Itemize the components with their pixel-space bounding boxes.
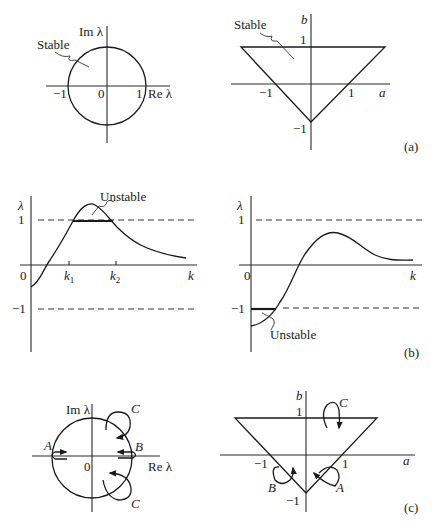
panel-a-right-triangle: b a 1 −1 −1 1 Stable (a) bbox=[231, 12, 418, 154]
tick-b-minus-one: −1 bbox=[293, 121, 307, 136]
tick-minus-one: −1 bbox=[231, 301, 245, 316]
panel-c-right-triangle: b a 1 −1 −1 1 C B A (c) bbox=[220, 388, 418, 515]
panel-a-left-unit-circle: Im λ Re λ −1 0 1 Stable bbox=[37, 24, 173, 143]
lambda-curve bbox=[31, 204, 186, 287]
tick-b-one: 1 bbox=[296, 404, 303, 419]
origin-label: 0 bbox=[20, 268, 27, 283]
panel-tag-b: (b) bbox=[404, 345, 419, 360]
unstable-leader-line bbox=[262, 313, 274, 330]
path-b-arrow bbox=[118, 452, 136, 458]
tick-a-minus-one: −1 bbox=[254, 456, 268, 471]
tick-a-one: 1 bbox=[348, 85, 355, 100]
tick-b-minus-one: −1 bbox=[286, 493, 300, 508]
re-lambda-label: Re λ bbox=[148, 459, 173, 474]
path-a-label: A bbox=[335, 480, 344, 495]
panel-tag-a: (a) bbox=[404, 139, 418, 154]
path-c-lower-label: C bbox=[131, 496, 140, 511]
unstable-label: Unstable bbox=[270, 327, 316, 342]
re-lambda-label: Re λ bbox=[148, 86, 173, 101]
path-b-label: B bbox=[268, 480, 276, 495]
tick-one: 1 bbox=[136, 86, 143, 101]
stable-leader-line bbox=[260, 33, 294, 59]
k2-label: k2 bbox=[110, 268, 120, 285]
path-c-upper-arrow bbox=[106, 412, 130, 438]
panel-tag-c: (c) bbox=[404, 500, 418, 515]
tick-a-minus-one: −1 bbox=[259, 85, 273, 100]
im-lambda-label: Im λ bbox=[79, 24, 104, 39]
k1-label: k1 bbox=[64, 268, 74, 285]
origin-label: 0 bbox=[84, 459, 91, 474]
b-label: b bbox=[301, 12, 308, 27]
k-label: k bbox=[410, 268, 416, 283]
panel-b-right-plot: λ k 0 1 −1 Unstable (b) bbox=[231, 196, 426, 360]
a-label: a bbox=[379, 85, 386, 100]
path-a-label: A bbox=[43, 438, 52, 453]
tick-a-one: 1 bbox=[342, 456, 349, 471]
path-b-label: B bbox=[135, 439, 143, 454]
origin-label: 0 bbox=[244, 268, 251, 283]
im-lambda-label: Im λ bbox=[66, 402, 91, 417]
lambda-label: λ bbox=[236, 198, 243, 213]
panel-c-left-unit-circle: Im λ Re λ 0 A B C C bbox=[32, 401, 173, 512]
path-c-upper-label: C bbox=[131, 401, 140, 416]
tick-one: 1 bbox=[18, 212, 25, 227]
stability-diagram-figure: Im λ Re λ −1 0 1 Stable b a 1 −1 −1 1 St… bbox=[0, 0, 437, 526]
a-label: a bbox=[403, 453, 410, 468]
tick-minus-one: −1 bbox=[12, 301, 26, 316]
stable-label: Stable bbox=[234, 17, 267, 32]
lambda-label: λ bbox=[17, 198, 24, 213]
k-label: k bbox=[188, 268, 194, 283]
lambda-curve bbox=[251, 232, 413, 326]
panel-b-left-plot: λ k 0 1 −1 k1 k2 Unstable bbox=[12, 189, 197, 352]
path-c-arrow bbox=[324, 402, 340, 428]
tick-b-one: 1 bbox=[300, 32, 307, 47]
path-c-label: C bbox=[339, 395, 348, 410]
b-label: b bbox=[296, 388, 303, 403]
tick-minus-one: −1 bbox=[53, 86, 67, 101]
stable-label: Stable bbox=[37, 37, 70, 52]
tick-one: 1 bbox=[238, 212, 245, 227]
tick-zero: 0 bbox=[98, 86, 105, 101]
